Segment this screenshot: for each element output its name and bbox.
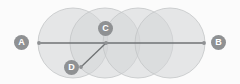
point-marker-b	[202, 41, 206, 45]
point-label-b: B	[211, 35, 226, 50]
point-marker-c	[104, 41, 108, 45]
point-label-a: A	[14, 35, 29, 50]
geometry-figure: A B C D	[0, 0, 240, 84]
point-label-d: D	[64, 60, 79, 75]
point-marker-a	[37, 41, 41, 45]
point-label-c: C	[98, 21, 113, 36]
point-marker-d	[79, 65, 83, 69]
geometry-canvas	[0, 0, 240, 84]
